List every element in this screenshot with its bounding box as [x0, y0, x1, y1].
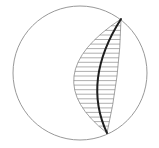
- stereonet-diagram: [0, 0, 159, 148]
- background: [0, 0, 159, 148]
